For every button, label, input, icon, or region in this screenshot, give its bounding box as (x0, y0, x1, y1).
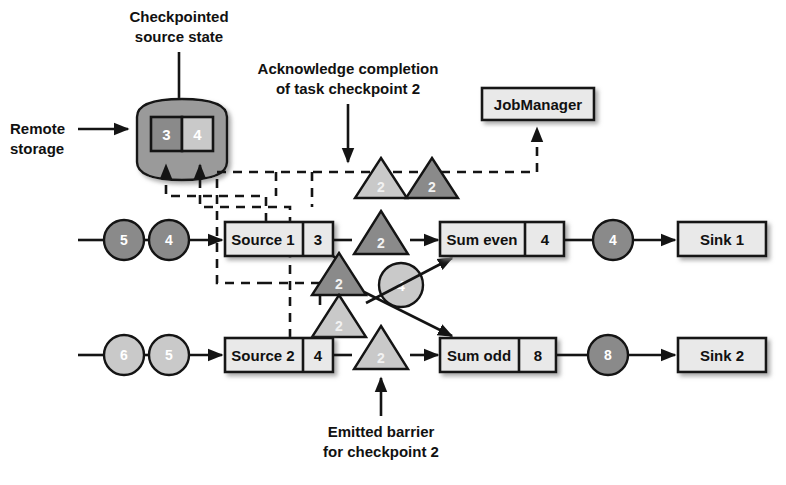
record-sink1-in-0: 4 (593, 220, 633, 260)
checkpointing-diagram: Checkpointed source state Acknowledge co… (0, 0, 786, 485)
stream-barrier-1-label: 2 (335, 276, 343, 292)
storage-cells: 3 4 (151, 117, 213, 151)
caption-acknowledge-line1: Acknowledge completion (258, 60, 439, 77)
record-sink2-in-0: 8 (588, 335, 628, 375)
caption-checkpointed-line2: source state (135, 28, 223, 45)
source1-label: Source 1 (231, 231, 294, 248)
caption-emitted-line2: for checkpoint 2 (323, 443, 439, 460)
caption-acknowledge-line2: of task checkpoint 2 (276, 80, 420, 97)
stream-barrier-2-label: 2 (335, 318, 343, 334)
record-source1-in-1-label: 4 (165, 232, 173, 248)
sum-even-state-value: 4 (541, 231, 550, 248)
record-source1-in-1: 4 (149, 220, 189, 260)
sum-even-label: Sum even (447, 231, 518, 248)
record-sink2-in-0-label: 8 (604, 347, 612, 363)
caption-remote-line2: storage (10, 140, 64, 157)
record-source2-in-1: 5 (149, 335, 189, 375)
caption-checkpointed-line1: Checkpointed (129, 8, 228, 25)
source1-state-value: 3 (314, 231, 322, 248)
storage-cell-0-label: 3 (162, 126, 170, 143)
source2-state-value: 4 (314, 347, 323, 364)
ack-barrier-0-label: 2 (377, 179, 385, 195)
record-source1-in-0: 5 (104, 220, 144, 260)
record-source2-in-0-label: 6 (120, 347, 128, 363)
record-source1-in-0-label: 5 (120, 232, 128, 248)
record-source2-in-1-label: 5 (165, 347, 173, 363)
ack-barrier-1-label: 2 (428, 179, 436, 195)
sink2-label: Sink 2 (700, 347, 744, 364)
source2-label: Source 2 (231, 347, 294, 364)
sink1-label: Sink 1 (700, 231, 744, 248)
record-source2-in-0: 6 (104, 335, 144, 375)
stream-barrier-0-label: 2 (377, 235, 385, 251)
job-manager-label: JobManager (494, 96, 583, 113)
caption-remote-line1: Remote (10, 120, 65, 137)
sum-odd-label: Sum odd (447, 347, 511, 364)
caption-emitted-line1: Emitted barrier (328, 423, 435, 440)
stream-barrier-3-label: 2 (377, 350, 385, 366)
sum-odd-state-value: 8 (534, 347, 542, 364)
record-sink1-in-0-label: 4 (609, 232, 617, 248)
storage-cell-1-label: 4 (193, 126, 202, 143)
